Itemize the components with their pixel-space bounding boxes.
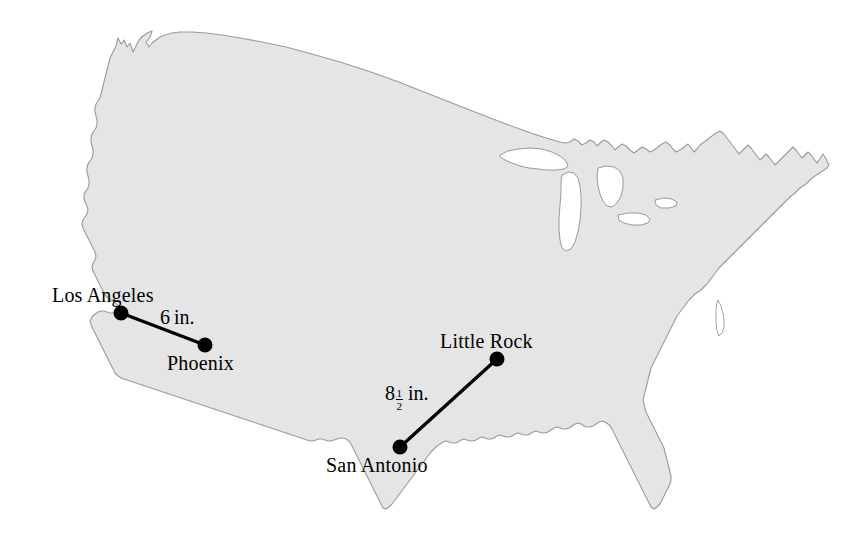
- city-dot-los-angeles[interactable]: [114, 306, 129, 321]
- map-land-group: [82, 31, 829, 509]
- distance-label-la-phoenix: 6 in.: [160, 306, 195, 329]
- distance-unit: in.: [408, 382, 429, 405]
- fraction-numerator: 1: [396, 387, 404, 400]
- distance-unit: in.: [174, 306, 195, 329]
- us-map-svg: [0, 0, 864, 544]
- distance-whole-number: 8: [385, 382, 395, 405]
- city-label-little-rock: Little Rock: [440, 330, 533, 353]
- distance-whole-number: 6: [160, 306, 170, 329]
- us-landmass-shape: [82, 31, 829, 509]
- map-figure: Los Angeles Phoenix Little Rock San Anto…: [0, 0, 864, 544]
- lake-ontario-shape: [655, 198, 677, 208]
- city-dot-phoenix[interactable]: [198, 338, 213, 353]
- distance-label-sanantonio-littlerock: 8 1 2 in.: [385, 382, 429, 415]
- city-dot-little-rock[interactable]: [490, 352, 505, 367]
- city-label-los-angeles: Los Angeles: [52, 284, 154, 307]
- fraction-denominator: 2: [396, 400, 404, 412]
- distance-fraction: 1 2: [396, 387, 404, 412]
- city-dot-san-antonio[interactable]: [393, 440, 408, 455]
- city-label-phoenix: Phoenix: [167, 352, 234, 375]
- city-label-san-antonio: San Antonio: [326, 454, 428, 477]
- chesapeake-bay-shape: [716, 300, 724, 336]
